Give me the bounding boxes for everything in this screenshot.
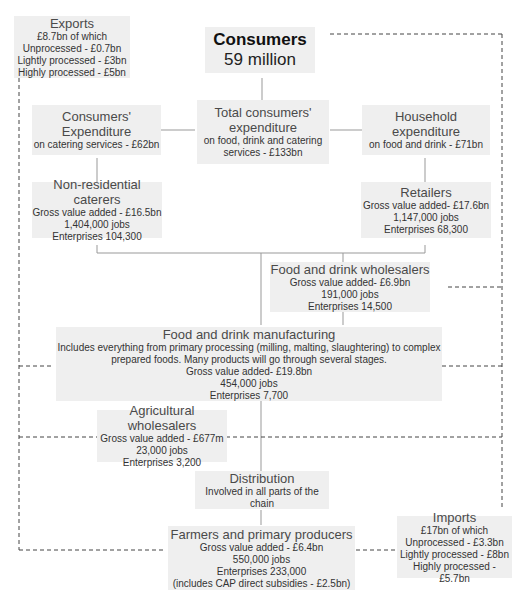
exports-line: Highly processed - £5bn <box>18 67 126 79</box>
farmers-title: Farmers and primary producers <box>170 527 352 542</box>
food-drink-wholesalers-box: Food and drink wholesalers Gross value a… <box>270 262 430 312</box>
exports-line: Lightly processed - £3bn <box>18 55 127 67</box>
agricultural-line: Gross value added - £677m <box>100 433 223 445</box>
farmers-line: Enterprises 233,000 <box>217 566 307 578</box>
manufacturing-line: Gross value added- £19.8bn <box>186 366 312 378</box>
farmers-line: Gross value added - £6.4bn <box>200 542 323 554</box>
total-expenditure-title: Total consumers' expenditure <box>201 105 325 135</box>
distribution-box: Distribution Involved in all parts of th… <box>195 471 329 509</box>
caterers-line: Enterprises 104,300 <box>52 231 142 243</box>
manufacturing-title: Food and drink manufacturing <box>163 327 336 342</box>
imports-line: £17bn of which <box>421 525 488 537</box>
agricultural-wholesalers-box: Agricultural wholesalers Gross value add… <box>97 410 227 462</box>
caterers-line: 1,404,000 jobs <box>64 219 130 231</box>
caterers-line: Gross value added - £16.5bn <box>33 207 162 219</box>
agricultural-line: 23,000 jobs <box>136 445 188 457</box>
household-expenditure-box: Household expenditure on food and drink … <box>362 105 490 155</box>
imports-line: Unprocessed - £3.3bn <box>405 537 503 549</box>
imports-line: Lightly processed - £8bn <box>400 549 509 561</box>
consumers-expenditure-box: Consumers' Expenditure on catering servi… <box>32 105 161 155</box>
retailers-title: Retailers <box>400 185 451 200</box>
consumers-box: Consumers 59 million <box>205 27 315 73</box>
retailers-line: Gross value added- £17.6bn <box>363 200 489 212</box>
consumers-title: Consumers <box>213 30 307 50</box>
manufacturing-line: Enterprises 7,700 <box>210 390 288 402</box>
consumers-expenditure-title: Consumers' Expenditure <box>32 109 161 139</box>
household-expenditure-title: Household expenditure <box>362 109 490 139</box>
imports-box: Imports £17bn of which Unprocessed - £3.… <box>397 516 512 578</box>
manufacturing-line: Includes everything from primary process… <box>58 342 441 354</box>
farmers-box: Farmers and primary producers Gross valu… <box>168 526 355 590</box>
household-expenditure-line: on food and drink - £71bn <box>369 139 483 151</box>
consumers-expenditure-line: on catering services - £62bn <box>34 139 160 151</box>
non-residential-caterers-box: Non-residential caterers Gross value add… <box>32 182 162 238</box>
imports-title: Imports <box>433 510 476 525</box>
agricultural-line: Enterprises 3,200 <box>123 457 201 469</box>
caterers-title: Non-residential caterers <box>32 177 162 207</box>
exports-box: Exports £8.7bn of which Unprocessed - £0… <box>14 16 130 78</box>
distribution-line: Involved in all parts of the chain <box>195 486 329 510</box>
exports-line: £8.7bn of which <box>37 31 107 43</box>
imports-line: Highly processed - £5.7bn <box>397 561 512 585</box>
wholesalers-line: 191,000 jobs <box>321 289 378 301</box>
retailers-box: Retailers Gross value added- £17.6bn 1,1… <box>361 182 491 238</box>
distribution-title: Distribution <box>229 471 294 486</box>
consumers-count: 59 million <box>224 50 296 70</box>
manufacturing-line: prepared foods. Many products will go th… <box>111 354 387 366</box>
wholesalers-line: Enterprises 14,500 <box>308 301 392 313</box>
retailers-line: 1,147,000 jobs <box>393 212 459 224</box>
exports-title: Exports <box>50 16 94 31</box>
total-expenditure-box: Total consumers' expenditure on food, dr… <box>197 100 329 164</box>
food-drink-manufacturing-box: Food and drink manufacturing Includes ev… <box>56 327 442 401</box>
wholesalers-line: Gross value added- £6.9bn <box>290 277 411 289</box>
wholesalers-title: Food and drink wholesalers <box>271 262 430 277</box>
exports-line: Unprocessed - £0.7bn <box>23 43 121 55</box>
agricultural-title: Agricultural wholesalers <box>97 403 227 433</box>
total-expenditure-line: on food, drink and catering services - £… <box>201 135 325 159</box>
manufacturing-line: 454,000 jobs <box>220 378 277 390</box>
retailers-line: Enterprises 68,300 <box>384 224 468 236</box>
farmers-line: (includes CAP direct subsidies - £2.5bn) <box>173 578 351 590</box>
farmers-line: 550,000 jobs <box>233 554 290 566</box>
